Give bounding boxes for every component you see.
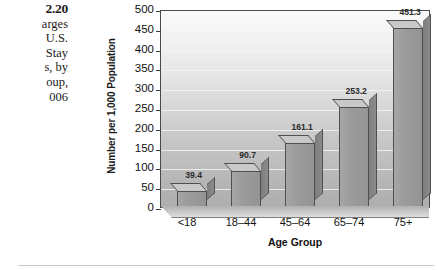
y-axis-tick — [156, 11, 161, 12]
x-axis-tick-label: 65–74 — [322, 216, 376, 228]
y-axis-tick — [156, 31, 161, 32]
bar[interactable]: 161.1 — [285, 143, 315, 207]
bar-top-face — [278, 135, 315, 143]
bar[interactable]: 253.2 — [339, 107, 369, 207]
bar-front-face — [285, 143, 315, 207]
bar-value-label: 39.4 — [185, 170, 202, 180]
y-axis-tick — [156, 70, 161, 71]
x-axis-tick-label: 18–44 — [214, 216, 268, 228]
bar-value-label: 90.7 — [239, 150, 256, 160]
bar-top-face — [332, 99, 369, 107]
y-axis-tick-label: 300 — [114, 82, 154, 94]
bar-top-face — [170, 183, 207, 191]
y-axis-tick-label: 450 — [114, 23, 154, 35]
bar-side-face — [315, 129, 323, 200]
bar-front-face — [231, 171, 261, 207]
gridline — [161, 31, 429, 32]
bar-side-face — [423, 14, 431, 200]
bar-value-label: 161.1 — [291, 122, 313, 132]
y-axis-tick-label: 150 — [114, 142, 154, 154]
caption-line-6: 006 — [0, 90, 68, 105]
bar-side-face — [369, 93, 377, 200]
gridline — [161, 90, 429, 91]
caption-line-2: U.S. — [0, 31, 68, 46]
gridline — [161, 51, 429, 52]
bar-front-face — [339, 107, 369, 207]
y-axis-tick — [156, 110, 161, 111]
y-axis-tick-label: 250 — [114, 102, 154, 114]
y-axis-tick-label: 350 — [114, 62, 154, 74]
bar-chart: Number per 1,000 Population 050100150200… — [120, 0, 438, 248]
bar[interactable]: 39.4 — [177, 191, 207, 207]
bar[interactable]: 90.7 — [231, 171, 261, 207]
caption-line-1: arges — [0, 17, 68, 32]
x-axis-tick-label: <18 — [160, 216, 214, 228]
y-axis-tick-label: 200 — [114, 122, 154, 134]
plot-area: 050100150200250300350400450500 39.490.71… — [160, 10, 430, 208]
caption-line-3: Stay — [0, 46, 68, 61]
gridline — [161, 70, 429, 71]
y-axis-tick — [156, 51, 161, 52]
y-axis-tick-label: 50 — [114, 181, 154, 193]
bar-front-face — [177, 191, 207, 207]
figure-page: 2.20 arges U.S. Stay s, by oup, 006 Numb… — [0, 0, 438, 270]
y-axis-tick — [156, 130, 161, 131]
bar-side-face — [261, 157, 269, 200]
figure-number: 2.20 — [0, 2, 68, 17]
x-axis-label: Age Group — [160, 236, 430, 248]
caption-line-4: s, by — [0, 60, 68, 75]
bottom-rule — [18, 265, 434, 266]
gridline — [161, 110, 429, 111]
bar-value-label: 253.2 — [345, 86, 367, 96]
y-axis-tick-label: 100 — [114, 161, 154, 173]
y-axis-tick — [156, 90, 161, 91]
x-axis-tick-label: 75+ — [376, 216, 430, 228]
y-axis-tick — [156, 189, 161, 190]
caption-line-5: oup, — [0, 75, 68, 90]
y-axis-tick — [156, 209, 161, 210]
bar-top-face — [386, 20, 423, 28]
y-axis-tick — [156, 150, 161, 151]
x-axis-tick-label: 45–64 — [268, 216, 322, 228]
y-axis-tick-label: 500 — [114, 3, 154, 15]
bar[interactable]: 451.3 — [393, 28, 423, 207]
bar-value-label: 451.3 — [399, 7, 421, 17]
bar-front-face — [393, 28, 423, 207]
figure-caption: 2.20 arges U.S. Stay s, by oup, 006 — [0, 2, 68, 104]
bar-side-face — [207, 177, 215, 200]
y-axis-tick-label: 400 — [114, 43, 154, 55]
y-axis-tick — [156, 169, 161, 170]
bar-top-face — [224, 163, 261, 171]
y-axis-tick-label: 0 — [114, 201, 154, 213]
